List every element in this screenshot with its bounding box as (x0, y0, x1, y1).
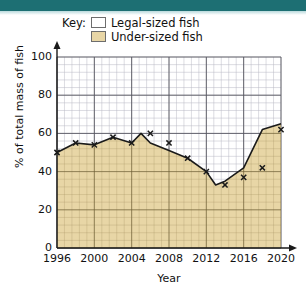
x-tick-label: 2016 (224, 252, 264, 265)
y-axis-ticks: 020406080100 (22, 0, 52, 294)
y-tick-label: 20 (22, 203, 52, 216)
y-tick-label: 100 (22, 50, 52, 63)
x-axis-label: Year (57, 272, 281, 285)
y-axis-label: % of total mass of fish (13, 27, 26, 187)
y-tick-label: 40 (22, 165, 52, 178)
x-tick-label: 2008 (149, 252, 189, 265)
plot-area: 020406080100 199620002004200820122016202… (0, 0, 306, 294)
y-tick-label: 80 (22, 88, 52, 101)
x-axis-ticks: 1996200020042008201220162020 (0, 252, 306, 268)
y-tick-label: 60 (22, 126, 52, 139)
chart-figure: Key: Legal-sized fish Under-sized fish 0… (0, 0, 306, 294)
x-tick-label: 1996 (37, 252, 77, 265)
x-tick-label: 2004 (112, 252, 152, 265)
x-tick-label: 2020 (261, 252, 301, 265)
x-tick-label: 2012 (186, 252, 226, 265)
x-tick-label: 2000 (74, 252, 114, 265)
